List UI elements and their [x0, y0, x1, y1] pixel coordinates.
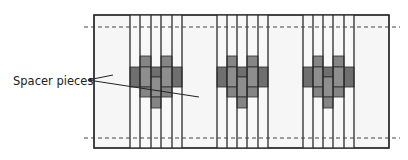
- spacer-piece: [247, 87, 258, 97]
- spacer-piece: [140, 56, 151, 67]
- spacer-piece: [333, 56, 344, 67]
- spacer-piece: [247, 67, 258, 87]
- spacer-piece: [237, 97, 247, 108]
- spacer-piece: [227, 56, 237, 67]
- spacer-piece: [237, 77, 247, 97]
- spacer-piece: [161, 56, 172, 67]
- spacer-piece: [217, 67, 227, 87]
- spacer-piece: [227, 87, 237, 97]
- spacer-piece: [227, 67, 237, 87]
- spacer-piece: [313, 87, 323, 97]
- spacer-piece: [140, 67, 151, 87]
- spacer-piece: [130, 67, 140, 87]
- spacer-piece: [323, 97, 333, 108]
- spacer-piece: [151, 67, 161, 77]
- spacer-piece: [323, 77, 333, 97]
- spacer-piece: [333, 87, 344, 97]
- spacer-pieces-label: Spacer pieces: [13, 74, 93, 88]
- spacer-piece: [161, 67, 172, 87]
- spacer-piece: [151, 77, 161, 97]
- spacer-piece: [151, 97, 161, 108]
- spacer-piece: [237, 67, 247, 77]
- spacer-piece: [303, 67, 313, 87]
- spacer-piece: [172, 67, 182, 87]
- spacer-piece: [344, 67, 354, 87]
- spacer-piece: [258, 67, 268, 87]
- spacer-piece: [323, 67, 333, 77]
- spacer-piece: [247, 56, 258, 67]
- spacer-piece: [333, 67, 344, 87]
- spacer-piece: [313, 56, 323, 67]
- spacer-piece: [313, 67, 323, 87]
